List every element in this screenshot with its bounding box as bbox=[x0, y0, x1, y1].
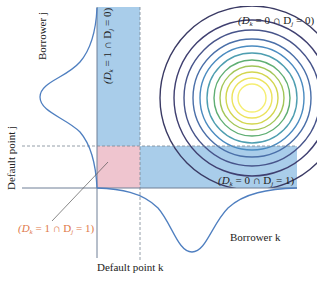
default-point-k-label: Default point k bbox=[97, 262, 164, 273]
borrower-k-text: Borrower k bbox=[230, 231, 280, 243]
borrower-j-text: Borrower j bbox=[36, 12, 48, 60]
borrower-j-marginal-curve bbox=[40, 8, 97, 188]
region-j-default-only-label: (Dk = 0 ∩ Dj = 1) bbox=[218, 175, 294, 188]
borrower-j-label: Borrower j bbox=[37, 12, 48, 60]
default-point-j-text: Default point j bbox=[5, 126, 17, 190]
borrower-k-label: Borrower k bbox=[230, 232, 280, 243]
region-no-default-label: (Dk = 0 ∩ Dj = 0) bbox=[238, 15, 314, 28]
region-joint-default-label: (Dk = 1 ∩ Dj = 1) bbox=[18, 223, 94, 236]
default-point-k-text: Default point k bbox=[97, 261, 164, 273]
region-k-default-only-label: (Dk = 1 ∩ Dj = 0) bbox=[102, 8, 115, 84]
joint-default-leader-line bbox=[52, 162, 108, 221]
default-point-j-label: Default point j bbox=[6, 126, 17, 190]
